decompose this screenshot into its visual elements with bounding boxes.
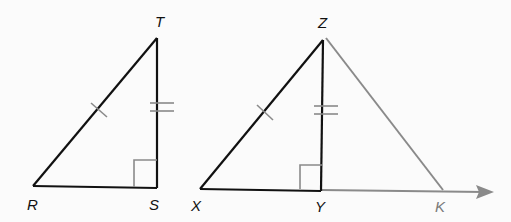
label-s: S — [149, 196, 159, 213]
ray-yk — [321, 190, 484, 192]
label-z: Z — [317, 14, 328, 31]
label-k: K — [435, 198, 446, 215]
segment-xy — [200, 189, 321, 191]
right-angle-mark-y — [300, 165, 322, 189]
triangle-rst — [33, 38, 174, 188]
triangle-xyz — [200, 40, 338, 191]
label-y: Y — [315, 198, 326, 215]
segment-rs — [33, 186, 157, 188]
label-r: R — [27, 196, 38, 213]
extension-zk — [321, 38, 494, 199]
label-x: X — [190, 197, 202, 214]
geometry-diagram: T R S Z X Y K — [0, 0, 511, 222]
segment-zk — [326, 38, 443, 190]
right-angle-mark-s — [134, 160, 157, 187]
segment-xz — [200, 40, 323, 189]
segment-rt — [33, 38, 157, 186]
label-t: T — [155, 13, 166, 30]
segment-yz — [321, 40, 323, 191]
